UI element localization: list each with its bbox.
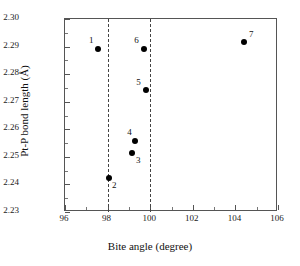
y-axis-tick [65, 19, 70, 20]
x-axis-tick [235, 205, 236, 210]
x-axis-tick-label: 100 [134, 214, 164, 223]
y-axis-tick-label: 2.26 [0, 123, 19, 132]
chart-page: Pt-P bond length (Å) 1234567 Bite angle … [0, 0, 300, 266]
reference-line [150, 19, 151, 212]
x-axis-title: Bite angle (degree) [0, 240, 300, 252]
x-axis-minor-tick [129, 207, 130, 210]
data-point [129, 150, 135, 156]
x-axis-minor-tick [86, 207, 87, 210]
x-axis-tick-label: 96 [49, 214, 79, 223]
x-axis-minor-tick [214, 207, 215, 210]
y-axis-title: Pt-P bond length (Å) [18, 11, 30, 211]
data-point-label: 6 [134, 36, 139, 45]
y-axis-tick-label: 2.28 [0, 68, 19, 77]
x-axis-tick-label: 102 [177, 214, 207, 223]
x-axis-minor-tick [257, 207, 258, 210]
y-axis-tick-label: 2.23 [0, 206, 19, 215]
y-axis-tick [65, 74, 70, 75]
y-axis-tick-label: 2.25 [0, 151, 19, 160]
y-axis-tick [65, 47, 70, 48]
x-axis-tick [193, 205, 194, 210]
data-point-label: 7 [249, 30, 254, 39]
x-axis-tick [65, 205, 66, 210]
y-axis-minor-tick [65, 143, 68, 144]
y-axis-minor-tick [65, 198, 68, 199]
data-point-label: 2 [112, 181, 117, 190]
y-axis-minor-tick [65, 171, 68, 172]
plot-area: 1234567 [64, 18, 277, 211]
y-axis-tick [65, 157, 70, 158]
data-point [132, 138, 138, 144]
reference-line [108, 19, 109, 212]
data-point [143, 87, 149, 93]
y-axis-tick-label: 2.29 [0, 41, 19, 50]
y-axis-tick [65, 129, 70, 130]
y-axis-tick-label: 2.24 [0, 178, 19, 187]
x-axis-minor-tick [172, 207, 173, 210]
y-axis-tick [65, 184, 70, 185]
x-axis-tick-label: 98 [92, 214, 122, 223]
y-axis-minor-tick [65, 60, 68, 61]
data-point-label: 4 [127, 128, 132, 137]
data-point [95, 46, 101, 52]
data-point [141, 46, 147, 52]
y-axis-tick [65, 102, 70, 103]
data-point-label: 1 [89, 36, 94, 45]
y-axis-tick-label: 2.30 [0, 13, 19, 22]
x-axis-tick-label: 106 [262, 214, 292, 223]
x-axis-tick-label: 104 [219, 214, 249, 223]
data-point-label: 5 [136, 78, 141, 87]
y-axis-minor-tick [65, 88, 68, 89]
y-axis-minor-tick [65, 116, 68, 117]
y-axis-minor-tick [65, 33, 68, 34]
x-axis-tick [278, 205, 279, 210]
data-point-label: 3 [136, 156, 141, 165]
data-point [241, 39, 247, 45]
y-axis-tick-label: 2.27 [0, 96, 19, 105]
